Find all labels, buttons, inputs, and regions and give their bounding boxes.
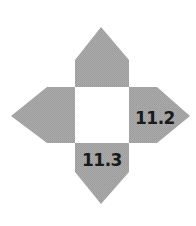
- left-arm: [11, 87, 75, 143]
- bottom-arm-label: 11.3: [82, 150, 122, 170]
- cross-net-diagram: 11.2 11.3: [0, 0, 196, 226]
- diagram-canvas: 11.2 11.3: [0, 0, 196, 226]
- right-arm-label: 11.2: [135, 108, 175, 128]
- center-square: [75, 87, 129, 143]
- top-arm: [75, 27, 129, 87]
